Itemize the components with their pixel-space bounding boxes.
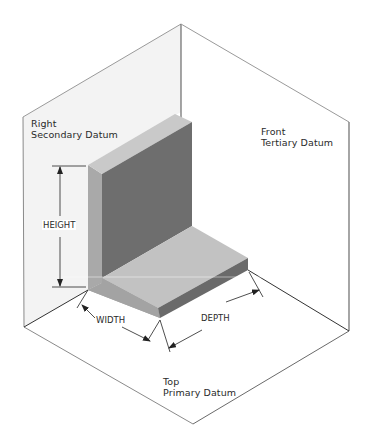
datum-diagram: Right Secondary Datum Front Tertiary Dat… bbox=[0, 0, 372, 447]
top-datum-label-line2: Primary Datum bbox=[163, 387, 236, 398]
top-datum-label-line1: Top bbox=[163, 376, 236, 387]
width-label: WIDTH bbox=[95, 315, 126, 325]
front-datum-label: Front Tertiary Datum bbox=[261, 126, 333, 148]
depth-label: DEPTH bbox=[200, 313, 231, 323]
front-datum-label-line1: Front bbox=[261, 126, 333, 137]
right-datum-label: Right Secondary Datum bbox=[31, 118, 118, 140]
front-datum-label-line2: Tertiary Datum bbox=[261, 137, 333, 148]
top-datum-label: Top Primary Datum bbox=[163, 376, 236, 398]
right-datum-label-line1: Right bbox=[31, 118, 118, 129]
right-datum-label-line2: Secondary Datum bbox=[31, 129, 118, 140]
height-label: HEIGHT bbox=[42, 220, 76, 230]
